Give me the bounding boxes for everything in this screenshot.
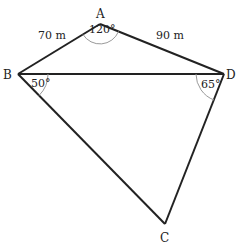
side-length-AB: 70 m — [38, 29, 66, 42]
vertex-label-C: C — [160, 231, 169, 245]
side-DC — [165, 74, 224, 224]
side-BC — [18, 74, 165, 224]
angle-value-A: 120° — [89, 23, 116, 36]
angle-value-D: 65° — [201, 78, 221, 91]
vertex-label-B: B — [3, 68, 12, 82]
vertex-label-A: A — [95, 7, 105, 21]
vertex-label-D: D — [226, 68, 236, 82]
angle-value-B: 50° — [31, 77, 51, 90]
side-length-AD: 90 m — [156, 29, 184, 42]
quadrilateral-diagram: A B D C 70 m 90 m 120° 50° 65° — [0, 0, 242, 246]
